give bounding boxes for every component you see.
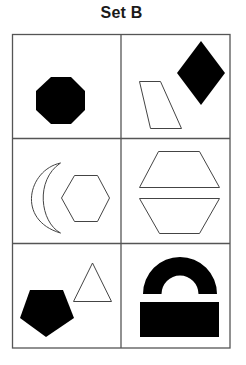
pentagon-shape [20, 290, 74, 337]
cell-r2-c2 [140, 152, 220, 234]
triangle-shape [74, 263, 112, 302]
diamond-shape [177, 41, 225, 105]
cell-r2-c1 [31, 163, 109, 233]
parallelogram-shape [140, 82, 182, 129]
crescent-shape [31, 163, 60, 233]
arch-shape [143, 257, 217, 294]
cell-r3-c2 [140, 257, 219, 337]
hexagon-shape [62, 176, 110, 222]
shape-grid-figure [0, 0, 246, 365]
rectangle-shape [140, 302, 219, 337]
octagon-shape [36, 77, 85, 124]
trapezoid-shape [140, 152, 220, 188]
cell-r1-c2 [140, 41, 226, 129]
cell-r1-c1 [36, 77, 85, 124]
inverted-trapezoid-shape [140, 199, 220, 234]
cell-r3-c1 [20, 263, 112, 337]
